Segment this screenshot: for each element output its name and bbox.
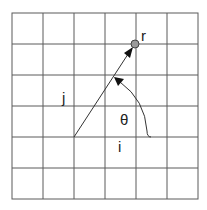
label-j: j <box>61 89 65 106</box>
vector-arrowhead-icon <box>124 47 133 58</box>
diagram-canvas: r j θ i <box>0 0 207 210</box>
label-r: r <box>141 27 146 44</box>
point-r-marker <box>131 40 139 48</box>
grid <box>12 13 198 199</box>
label-theta: θ <box>120 111 128 128</box>
angle-arrowhead-icon <box>114 77 124 86</box>
label-i: i <box>118 138 121 155</box>
